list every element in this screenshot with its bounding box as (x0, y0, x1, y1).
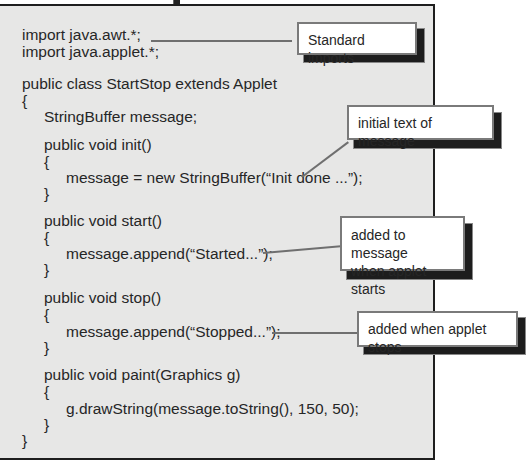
code-line: } (44, 339, 49, 357)
imports-connector-line (151, 40, 292, 42)
code-line: { (22, 92, 27, 110)
stop-connector-line (272, 332, 358, 334)
code-line: message.append(“Started...”); (66, 245, 273, 263)
code-line: } (44, 416, 49, 434)
start-callout: added to message when applet starts (340, 216, 465, 271)
code-line: { (44, 153, 49, 171)
code-line: import java.awt.*; (22, 26, 141, 44)
code-line: message = new StringBuffer(“Init done ..… (66, 169, 363, 187)
code-line: public void paint(Graphics g) (44, 366, 240, 384)
code-line: public class StartStop extends Applet (22, 75, 277, 93)
code-line: message.append(“Stopped...”); (66, 323, 281, 341)
code-line: import java.applet.*; (22, 43, 159, 61)
code-line: StringBuffer message; (44, 108, 197, 126)
code-line: { (44, 383, 49, 401)
code-line: } (22, 432, 27, 450)
init-callout: initial text of message (347, 105, 494, 140)
code-line: } (44, 185, 49, 203)
imports-callout: Standard imports (297, 22, 417, 55)
code-line: g.drawString(message.toString(), 150, 50… (66, 400, 359, 418)
stop-callout: added when applet stops (357, 311, 518, 347)
code-line: public void init() (44, 136, 152, 154)
code-line: public void start() (44, 212, 162, 230)
start-callout-line1: added to message (351, 226, 454, 262)
code-line: public void stop() (44, 289, 161, 307)
code-line: } (44, 261, 49, 279)
code-line: { (44, 306, 49, 324)
code-line: { (44, 229, 49, 247)
start-callout-line2: when applet starts (351, 262, 454, 298)
